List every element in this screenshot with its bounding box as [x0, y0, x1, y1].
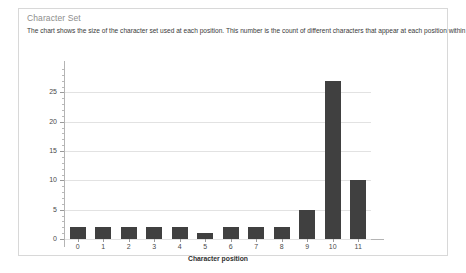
bar-slot [193, 69, 219, 239]
x-axis-tick [256, 239, 257, 242]
x-axis-label: 5 [193, 243, 219, 250]
x-axis-label: 8 [269, 243, 295, 250]
bar-slot [116, 69, 142, 239]
x-axis-tick [205, 239, 206, 242]
bar[interactable] [325, 81, 341, 239]
x-axis-label: 9 [295, 243, 321, 250]
x-axis-label: 10 [320, 243, 346, 250]
bar[interactable] [121, 227, 137, 239]
x-axis-label: 7 [244, 243, 270, 250]
bar[interactable] [274, 227, 290, 239]
y-axis-label: 20 [23, 118, 57, 125]
y-axis-label: 25 [23, 88, 57, 95]
x-axis-tick [333, 239, 334, 242]
x-axis-label: 1 [91, 243, 117, 250]
bar-slot [142, 69, 168, 239]
x-axis-tick [282, 239, 283, 242]
bar-slot [295, 69, 321, 239]
y-axis-label: 10 [23, 176, 57, 183]
x-axis-label: 6 [218, 243, 244, 250]
bar-slot [167, 69, 193, 239]
plot-area [65, 69, 371, 239]
bar-slot [91, 69, 117, 239]
x-axis-label: 11 [346, 243, 372, 250]
x-axis-label: 4 [167, 243, 193, 250]
panel-title: Character Set [27, 13, 81, 23]
x-axis-tick [231, 239, 232, 242]
x-axis-title: Character position [65, 255, 371, 262]
bar-slot [346, 69, 372, 239]
bar[interactable] [248, 227, 264, 239]
x-axis-tick [154, 239, 155, 242]
x-axis-tick [103, 239, 104, 242]
x-axis-tick [180, 239, 181, 242]
x-axis-tick [307, 239, 308, 242]
character-set-bar-chart: 0510152025 01234567891011 Character posi… [19, 47, 447, 255]
bar[interactable] [95, 227, 111, 239]
y-axis-label: 15 [23, 147, 57, 154]
gridline [65, 239, 371, 240]
bar-slot [65, 69, 91, 239]
bar[interactable] [350, 180, 366, 239]
bar-slot [320, 69, 346, 239]
panel-description: The chart shows the size of the characte… [27, 26, 445, 35]
x-axis-label: 2 [116, 243, 142, 250]
y-axis-labels: 0510152025 [19, 47, 57, 255]
bar-series [65, 69, 371, 239]
x-axis-labels: 01234567891011 [65, 243, 371, 250]
bar[interactable] [70, 227, 86, 239]
bar-slot [218, 69, 244, 239]
bar[interactable] [299, 210, 315, 239]
bar[interactable] [223, 227, 239, 239]
y-axis-label: 5 [23, 206, 57, 213]
character-set-panel: Character Set The chart shows the size o… [18, 8, 448, 256]
bar[interactable] [146, 227, 162, 239]
x-axis-tick [129, 239, 130, 242]
x-axis-tick [78, 239, 79, 242]
bar[interactable] [172, 227, 188, 239]
x-axis-label: 3 [142, 243, 168, 250]
bar-slot [269, 69, 295, 239]
x-axis-tick [358, 239, 359, 242]
bar-slot [244, 69, 270, 239]
x-axis-label: 0 [65, 243, 91, 250]
y-axis-label: 0 [23, 235, 57, 242]
